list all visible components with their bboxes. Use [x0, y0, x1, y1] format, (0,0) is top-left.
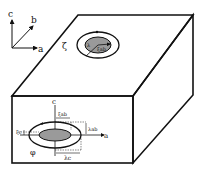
phi-label: φ: [30, 148, 36, 157]
axis-b-label: b: [31, 15, 37, 25]
top-face: [12, 15, 193, 96]
front-axis-a-label: a: [104, 132, 108, 140]
axes-triad: c b a: [8, 9, 44, 54]
crystal-diagram: c b a ζ λ ξab c a: [0, 0, 205, 177]
top-vortex: ζ λ ξab: [62, 31, 119, 58]
front-vortex: c a ξab λab ξc λc φ: [16, 98, 108, 161]
diagram-root: c b a ζ λ ξab c a: [0, 0, 205, 177]
xi-ab-label: ξab: [58, 111, 67, 118]
lambda-ab-label: λab: [88, 126, 97, 132]
front-axis-c-label: c: [52, 98, 56, 106]
axis-a-label: a: [38, 44, 44, 54]
axis-c-label: c: [8, 9, 13, 19]
xi-c-label: ξc: [16, 129, 22, 136]
lambda-c-label: λc: [64, 154, 72, 161]
right-face: [133, 15, 193, 163]
zeta-label: ζ: [62, 41, 67, 51]
inner-xi-label: ξab: [97, 46, 106, 53]
